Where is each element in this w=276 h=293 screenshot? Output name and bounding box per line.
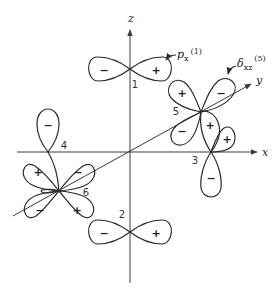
orbital-2-sign-positive: + — [151, 227, 160, 240]
orbital-6-sign-upper-right: − — [73, 166, 82, 179]
orbital-1-sign-positive: + — [151, 64, 160, 77]
orbital-5-sign-lower: + — [205, 119, 214, 132]
orbital-6-sign-upper-left: + — [33, 166, 42, 179]
orbital-4-sign-upper: − — [43, 119, 52, 132]
callout-delta-xz-label: δxz(5) — [237, 54, 266, 72]
y-axis-label: y — [255, 74, 263, 87]
orbital-6-sign-lower-left: − — [35, 204, 44, 217]
orbital-6-position-label: 6 — [83, 187, 89, 198]
orbital-1-lobe-negative — [89, 57, 130, 81]
orbital-2-sign-negative: − — [99, 227, 108, 240]
orbital-3-sign-lower: − — [206, 172, 215, 185]
callout-delta-xz: δxz(5) — [228, 54, 266, 74]
orbital-5-position-label: 5 — [173, 106, 179, 117]
orbital-diagram: z x y − + 1 px(1) + − − + 5 δxz(5) — [0, 0, 276, 293]
orbital-6: + − − + 6 — [23, 152, 94, 218]
orbital-3: + − 3 — [192, 127, 235, 197]
orbital-6-sign-lower-right: + — [72, 204, 81, 217]
orbital-5-sign-lower-left: − — [177, 125, 186, 138]
callout-p-x: px(1) — [166, 47, 202, 63]
orbital-5-sign-upper-right: − — [216, 87, 225, 100]
orbital-3-sign-upper: + — [222, 133, 231, 146]
orbital-5-lobe-lower — [200, 111, 219, 152]
orbital-2-position-label: 2 — [119, 209, 125, 220]
orbital-5-sign-upper-left: + — [177, 87, 186, 100]
orbital-1-sign-negative: − — [99, 64, 108, 77]
orbital-4-position-label: 4 — [61, 140, 67, 151]
orbital-6-connector — [48, 152, 59, 191]
callout-p-x-label: px(1) — [177, 47, 202, 63]
orbital-1-position-label: 1 — [132, 79, 138, 90]
callout-delta-xz-arrow — [228, 66, 236, 74]
orbital-3-position-label: 3 — [192, 155, 198, 166]
orbital-2-lobe-negative — [89, 220, 130, 244]
z-axis-label: z — [127, 12, 134, 25]
x-axis-label: x — [262, 146, 269, 159]
orbital-4: − 4 — [37, 109, 67, 152]
